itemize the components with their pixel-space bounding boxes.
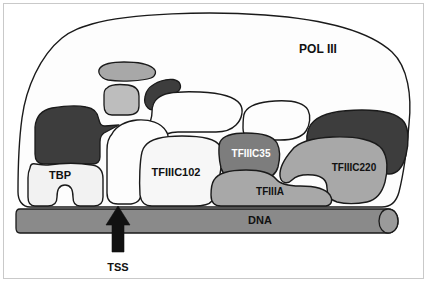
dna-end-cap	[379, 209, 398, 233]
label-tfiiia: TFIIIA	[256, 186, 284, 197]
pol3-complex-diagram: POL III TFIIIC102 TBP TFIIIC35 TFIIIC220	[0, 0, 429, 284]
label-tss: TSS	[107, 261, 128, 273]
shape-gray-blob-top[interactable]	[99, 62, 156, 81]
label-tfiiic102: TFIIIC102	[152, 166, 201, 178]
label-tfiiic35: TFIIIC35	[232, 148, 271, 159]
figure-canvas: POL III TFIIIC102 TBP TFIIIC35 TFIIIC220	[0, 0, 429, 284]
label-pol3: POL III	[299, 42, 337, 56]
shape-light-blob-top[interactable]	[104, 85, 139, 115]
label-tfiiic220: TFIIIC220	[332, 162, 377, 173]
label-tbp: TBP	[49, 169, 71, 181]
shape-dna-cylinder[interactable]	[16, 209, 398, 233]
label-dna: DNA	[248, 214, 272, 226]
